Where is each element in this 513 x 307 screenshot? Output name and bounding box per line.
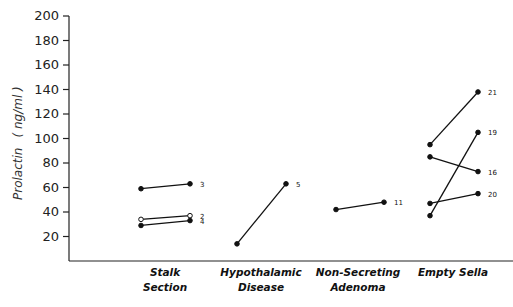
series-label: 21 <box>488 89 497 97</box>
data-point <box>428 213 433 218</box>
series-2: 2 <box>139 213 205 222</box>
data-point <box>476 130 481 135</box>
data-point <box>382 200 387 205</box>
category-label: Section <box>143 281 187 293</box>
data-point <box>428 142 433 147</box>
y-tick-label: 60 <box>42 180 59 195</box>
data-point <box>188 213 193 218</box>
series-label: 16 <box>488 169 497 177</box>
y-tick-label: 100 <box>34 131 59 146</box>
series-19: 19 <box>428 129 497 218</box>
y-tick-label: 160 <box>34 57 59 72</box>
prolactin-chart: 20406080100120140160180200 3245112119162… <box>0 0 513 307</box>
data-point <box>188 218 193 223</box>
data-point <box>428 201 433 206</box>
category-label: Hypothalamic <box>220 266 302 278</box>
data-point <box>139 186 144 191</box>
y-tick-label: 180 <box>34 33 59 48</box>
series-11: 11 <box>334 199 403 212</box>
y-tick-label: 40 <box>42 204 59 219</box>
y-tick-label: 80 <box>42 155 59 170</box>
data-point <box>139 223 144 228</box>
category-label: Empty Sella <box>418 266 488 278</box>
series-label: 4 <box>200 218 205 226</box>
data-point <box>428 155 433 160</box>
data-series: 32451121191620 <box>139 89 498 246</box>
series-label: 20 <box>488 191 497 199</box>
series-label: 3 <box>200 181 204 189</box>
data-point <box>284 182 289 187</box>
series-label: 19 <box>488 129 497 137</box>
data-point <box>235 242 240 247</box>
series-20: 20 <box>428 191 497 206</box>
y-tick-label: 120 <box>34 106 59 121</box>
category-label: Non-Secreting <box>316 266 401 278</box>
y-tick-label: 140 <box>34 82 59 97</box>
category-label: Stalk <box>150 266 181 278</box>
data-point <box>476 169 481 174</box>
series-3: 3 <box>139 181 205 191</box>
series-label: 11 <box>394 199 403 207</box>
series-5: 5 <box>235 181 301 246</box>
y-axis: 20406080100120140160180200 <box>34 8 69 261</box>
y-axis-title: Prolactin( ng/ml ) <box>11 86 25 200</box>
data-point <box>476 90 481 95</box>
y-tick-label: 200 <box>34 8 59 23</box>
data-point <box>139 217 144 222</box>
data-point <box>334 207 339 212</box>
category-label: Disease <box>238 281 284 293</box>
series-label: 5 <box>296 181 300 189</box>
data-point <box>476 191 481 196</box>
category-label: Adenoma <box>329 281 385 293</box>
data-point <box>188 182 193 187</box>
series-21: 21 <box>428 89 497 147</box>
y-tick-label: 20 <box>42 229 59 244</box>
category-labels: StalkSectionHypothalamicDiseaseNon-Secre… <box>143 266 488 293</box>
